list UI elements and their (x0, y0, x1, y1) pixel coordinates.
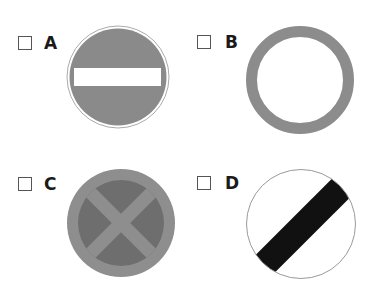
option-label-b: B (225, 34, 238, 51)
national-speed-limit-sign-icon (245, 168, 357, 280)
no-entry-sign-icon (66, 25, 170, 129)
checkbox-a[interactable] (18, 36, 32, 50)
no-stopping-sign-icon (66, 168, 176, 278)
option-label-c: C (44, 176, 56, 193)
no-vehicles-sign-icon (245, 26, 355, 134)
checkbox-d[interactable] (197, 176, 211, 190)
checkbox-c[interactable] (18, 177, 32, 191)
checkbox-b[interactable] (197, 35, 211, 49)
option-label-d: D (225, 175, 239, 192)
option-label-a: A (44, 35, 57, 52)
